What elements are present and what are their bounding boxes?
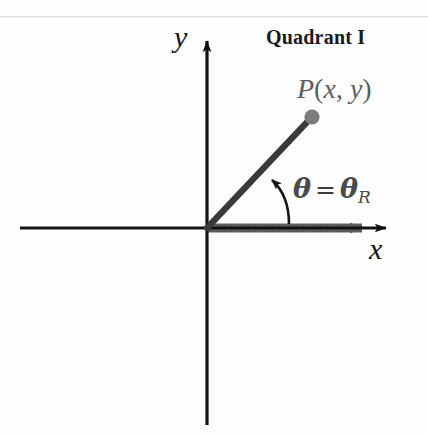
angle-arc — [272, 180, 289, 224]
point-p-coord-x: x — [323, 73, 335, 104]
quadrant-label: Quadrant I — [266, 27, 365, 47]
theta-symbol: θ — [293, 173, 311, 204]
x-axis-label: x — [369, 234, 382, 264]
point-p-label: P(x, y) — [297, 75, 372, 103]
theta-subscript-r: R — [358, 187, 371, 207]
equals-symbol: = — [311, 175, 340, 204]
coordinate-plane-svg — [0, 0, 428, 436]
y-axis-label: y — [174, 22, 187, 52]
point-p-marker — [304, 109, 319, 124]
angle-equation-label: θ=θR — [293, 175, 371, 206]
point-p-comma: , — [336, 73, 343, 104]
point-p-close-paren: ) — [362, 73, 371, 104]
theta-reference-symbol: θ — [340, 173, 358, 204]
point-p-coord-y: y — [350, 73, 362, 104]
figure-canvas: y x Quadrant I P(x, y) θ=θR — [0, 0, 428, 436]
point-p-name: P — [297, 73, 314, 104]
